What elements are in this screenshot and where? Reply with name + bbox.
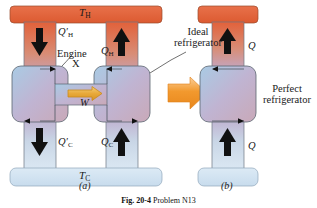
ideal-refrigerator-line1: Ideal [162,26,234,37]
label-q-bottom-b: Q [248,140,256,151]
perfect-refrigerator-line1: Perfect [258,83,316,94]
label-q-h: QH [101,45,114,58]
caption-text: Problem N13 [153,196,196,205]
figure-caption: Fig. 20-4 Problem N13 [0,196,317,205]
ideal-refrigerator-leader-line [150,52,186,73]
panel-label-b: (b) [221,181,233,192]
figure-container: TH TC Q′H QH Q′C QC Engine X W Ideal ref… [0,0,317,208]
ideal-refrigerator-label: Ideal refrigerator [162,26,234,48]
perfect-refrigerator-label: Perfect refrigerator [258,83,316,105]
label-q-prime-c: Q′C [58,136,73,149]
hot-reservoir-label-a: TH [79,7,91,19]
hot-temp-subscript: H [85,11,90,20]
hot-reservoir-b [198,6,258,23]
label-q-c: QC [101,136,113,149]
perfect-refrigerator-box-b [200,66,256,122]
panel-label-a: (a) [79,181,91,192]
caption-prefix: Fig. 20-4 [121,196,151,205]
label-q-prime-h: Q′H [58,26,73,39]
label-q-top-b: Q [248,40,256,51]
ideal-refrigerator-line2: refrigerator [162,37,234,48]
work-label: W [80,97,89,108]
perfect-refrigerator-line2: refrigerator [258,94,316,105]
engine-name-label: X [72,58,80,69]
